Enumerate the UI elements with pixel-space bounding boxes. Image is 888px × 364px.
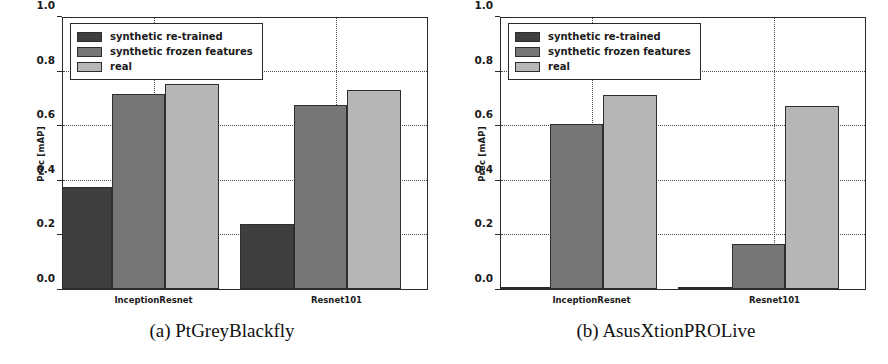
y-tick-mark <box>57 180 62 181</box>
bar <box>112 94 166 289</box>
y-axis-label-a: Prec [mAP] <box>36 126 46 182</box>
bar <box>165 84 219 289</box>
panel-a: 0.00.20.40.60.81.0 InceptionResnetResnet… <box>0 0 444 364</box>
y-tick-label: 0.8 <box>36 54 55 66</box>
y-tick-mark <box>495 16 500 17</box>
y-tick-label: 0.2 <box>474 217 493 229</box>
legend-item: real <box>515 59 691 74</box>
plot-area-b: 0.00.20.40.60.81.0 InceptionResnetResnet… <box>500 17 866 290</box>
y-tick-mark <box>57 234 62 235</box>
plot-area-a: 0.00.20.40.60.81.0 InceptionResnetResnet… <box>62 17 428 290</box>
y-tick-label: 0.6 <box>36 108 55 120</box>
y-tick-label: 0.0 <box>474 272 493 284</box>
legend-swatch-synthetic-re-trained <box>515 32 540 42</box>
x-tick-label: Resnet101 <box>749 295 800 305</box>
legend-item: synthetic re-trained <box>515 29 691 44</box>
legend-swatch-real <box>515 62 540 72</box>
y-tick-label: 1.0 <box>36 0 55 11</box>
y-tick-label: 0.0 <box>36 272 55 284</box>
y-axis-label-b: Prec [mAP] <box>477 126 487 182</box>
caption-panel-b: (b) AsusXtionPROLive <box>444 320 888 342</box>
legend-item: real <box>77 59 253 74</box>
y-tick-mark <box>57 289 62 290</box>
caption-panel-a: (a) PtGreyBlackfly <box>0 320 444 342</box>
bar <box>678 287 732 289</box>
figure-two-panel-bar-charts: 0.00.20.40.60.81.0 InceptionResnetResnet… <box>0 0 888 364</box>
bar <box>785 106 839 289</box>
legend-swatch-real <box>77 62 102 72</box>
y-tick-label: 0.6 <box>474 108 493 120</box>
y-tick-mark <box>57 71 62 72</box>
bar <box>62 187 112 289</box>
x-tick-label: Resnet101 <box>311 295 362 305</box>
bar <box>294 105 348 289</box>
legend-label-synthetic-frozen-features: synthetic frozen features <box>110 47 253 57</box>
legend-a: synthetic re-trained synthetic frozen fe… <box>70 23 263 80</box>
legend-label-real: real <box>548 62 570 72</box>
y-tick-mark <box>495 234 500 235</box>
legend-label-synthetic-re-trained: synthetic re-trained <box>548 32 661 42</box>
y-tick-mark <box>495 289 500 290</box>
x-tick-label: InceptionResnet <box>114 295 192 305</box>
bar <box>603 95 657 289</box>
legend-item: synthetic frozen features <box>77 44 253 59</box>
legend-label-synthetic-frozen-features: synthetic frozen features <box>548 47 691 57</box>
bar <box>240 224 294 289</box>
legend-swatch-synthetic-frozen-features <box>77 47 102 57</box>
bar <box>347 90 401 289</box>
legend-item: synthetic re-trained <box>77 29 253 44</box>
legend-label-real: real <box>110 62 132 72</box>
y-tick-mark <box>57 16 62 17</box>
y-tick-mark <box>57 125 62 126</box>
panel-b: 0.00.20.40.60.81.0 InceptionResnetResnet… <box>444 0 888 364</box>
y-tick-label: 0.2 <box>36 217 55 229</box>
y-tick-label: 1.0 <box>474 0 493 11</box>
y-tick-label: 0.8 <box>474 54 493 66</box>
bar <box>550 124 604 289</box>
legend-label-synthetic-re-trained: synthetic re-trained <box>110 32 223 42</box>
y-tick-mark <box>495 180 500 181</box>
legend-swatch-synthetic-frozen-features <box>515 47 540 57</box>
y-tick-mark <box>495 71 500 72</box>
bar <box>500 287 550 289</box>
legend-item: synthetic frozen features <box>515 44 691 59</box>
x-tick-label: InceptionResnet <box>552 295 630 305</box>
legend-b: synthetic re-trained synthetic frozen fe… <box>508 23 701 80</box>
y-tick-mark <box>495 125 500 126</box>
legend-swatch-synthetic-re-trained <box>77 32 102 42</box>
bar <box>732 244 786 289</box>
